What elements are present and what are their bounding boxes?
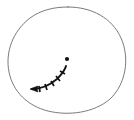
- tick-mark: [39, 86, 40, 92]
- isolated-dot: [65, 57, 69, 61]
- figure-canvas: Hand-drawn closed curve with arrowed tra…: [0, 0, 134, 120]
- diagram-svg: [0, 0, 134, 120]
